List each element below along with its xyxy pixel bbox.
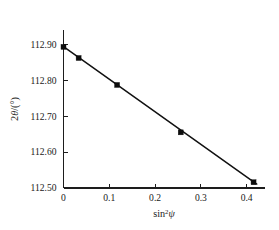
svg-text:sin2ψ: sin2ψ	[153, 208, 175, 220]
y-axis-tick-marks	[64, 44, 68, 188]
x-axis-tick-marks	[64, 184, 247, 188]
chart-canvas: 00.10.20.30.4 112.50112.60112.70112.8011…	[0, 0, 279, 230]
data-point-3	[178, 130, 183, 135]
data-point-2	[115, 82, 120, 87]
chart-figure: 00.10.20.30.4 112.50112.60112.70112.8011…	[0, 0, 279, 230]
plot-axes	[64, 30, 266, 188]
data-series-group	[61, 44, 257, 184]
y-tick-label-4: 112.90	[30, 39, 56, 50]
y-tick-label-0: 112.50	[30, 182, 56, 193]
data-point-0	[61, 44, 66, 49]
svg-text:2θ/(°): 2θ/(°)	[9, 97, 21, 121]
regression-line	[64, 47, 257, 185]
x-tick-label-0: 0	[61, 192, 66, 203]
x-tick-label-2: 0.2	[149, 192, 161, 203]
x-tick-label-1: 0.1	[103, 192, 115, 203]
data-point-4	[251, 180, 256, 185]
y-tick-label-1: 112.60	[30, 146, 56, 157]
x-axis-title: sin2ψ	[153, 208, 175, 220]
y-axis-title: 2θ/(°)	[9, 97, 21, 121]
y-tick-label-3: 112.80	[30, 75, 56, 86]
x-tick-label-3: 0.3	[195, 192, 207, 203]
y-tick-label-2: 112.70	[30, 111, 56, 122]
data-point-1	[76, 56, 81, 61]
x-axis-tick-labels: 00.10.20.30.4	[61, 192, 253, 203]
x-tick-label-4: 0.4	[241, 192, 253, 203]
y-axis-tick-labels: 112.50112.60112.70112.80112.90	[30, 39, 56, 194]
